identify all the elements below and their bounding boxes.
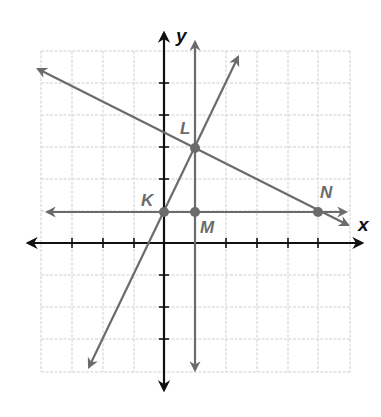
- point-K: [159, 207, 169, 217]
- point-L: [190, 143, 200, 153]
- lines: [38, 42, 348, 370]
- label-N: N: [320, 183, 333, 202]
- point-N: [313, 207, 323, 217]
- point-M: [190, 207, 200, 217]
- coordinate-plane-figure: K L M N y x: [0, 0, 381, 417]
- label-M: M: [200, 218, 215, 237]
- x-axis-label: x: [357, 214, 370, 235]
- label-L: L: [180, 119, 190, 138]
- y-axis-label: y: [175, 25, 188, 46]
- label-K: K: [141, 191, 155, 210]
- points: [159, 143, 323, 217]
